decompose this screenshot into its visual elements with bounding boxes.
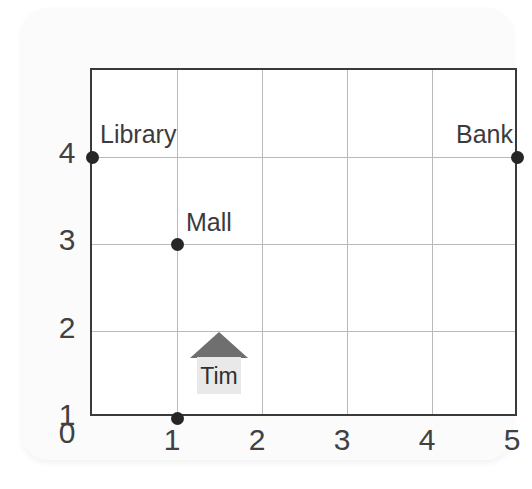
x-tick-2: 2: [237, 420, 277, 460]
label-library: Library: [100, 120, 176, 148]
point-origin-x1[interactable]: [171, 412, 184, 425]
plot-area: Library Mall Bank Tim: [90, 68, 517, 416]
y-tick-2: 2: [50, 311, 84, 345]
coordinate-grid-page: 4 3 2 1 1 2 3 4 5 0 Librar: [0, 0, 532, 489]
house-marker-tim[interactable]: Tim: [190, 332, 248, 394]
label-bank: Bank: [435, 120, 513, 148]
gridline-y-2: [92, 244, 515, 245]
x-tick-1: 1: [152, 420, 192, 460]
x-tick-4: 4: [407, 420, 447, 460]
y-tick-3: 3: [50, 223, 84, 257]
y-tick-4: 4: [50, 136, 84, 170]
gridline-y-1: [92, 331, 515, 332]
x-tick-3: 3: [322, 420, 362, 460]
gridline-x-4: [432, 70, 433, 414]
point-library[interactable]: [86, 151, 99, 164]
origin-tick-0: 0: [50, 416, 84, 450]
label-mall: Mall: [186, 208, 232, 236]
x-tick-5: 5: [492, 420, 532, 460]
point-bank[interactable]: [511, 151, 524, 164]
house-label-tim: Tim: [197, 358, 241, 395]
gridline-x-2: [262, 70, 263, 414]
chart-card: 4 3 2 1 1 2 3 4 5 0 Librar: [22, 8, 512, 460]
house-roof-icon: [190, 332, 248, 358]
gridline-y-3: [92, 157, 515, 158]
gridline-x-3: [347, 70, 348, 414]
point-mall[interactable]: [171, 238, 184, 251]
